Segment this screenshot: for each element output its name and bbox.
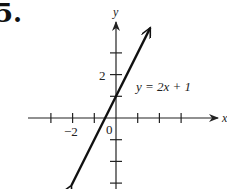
figure: 5. x y −2 2 0 y = 2x + 1 xyxy=(0,0,227,189)
origin-label: 0 xyxy=(106,122,113,137)
equation-label: y = 2x + 1 xyxy=(134,79,191,94)
line-plot: x y −2 2 0 y = 2x + 1 xyxy=(0,0,227,189)
problem-number: 5. xyxy=(0,0,22,28)
y-tick-label: 2 xyxy=(99,68,106,83)
y-axis-label: y xyxy=(112,5,119,19)
x-tick-label: −2 xyxy=(64,124,78,139)
x-axis-label: x xyxy=(221,111,227,125)
